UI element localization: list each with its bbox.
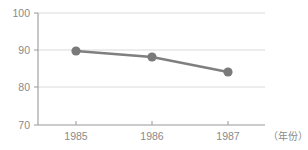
data-point-1987[interactable] xyxy=(223,67,232,76)
line-chart: 100 90 80 70 1985 1986 1987 （年份） xyxy=(0,0,308,150)
data-point-1986[interactable] xyxy=(147,52,156,61)
x-tick-label-1986: 1986 xyxy=(140,130,164,142)
chart-canvas: 100 90 80 70 1985 1986 1987 （年份） xyxy=(0,0,308,150)
y-tick-label-100: 100 xyxy=(12,7,30,19)
y-tick-label-80: 80 xyxy=(18,81,30,93)
y-tick-marks xyxy=(34,13,38,125)
y-tick-label-70: 70 xyxy=(18,119,30,131)
x-tick-marks xyxy=(76,121,228,125)
x-axis-name: （年份） xyxy=(268,130,308,142)
x-tick-label-1987: 1987 xyxy=(216,130,240,142)
series-markers xyxy=(71,46,232,76)
data-point-1985[interactable] xyxy=(71,46,80,55)
y-tick-label-90: 90 xyxy=(18,44,30,56)
x-tick-label-1985: 1985 xyxy=(64,130,88,142)
